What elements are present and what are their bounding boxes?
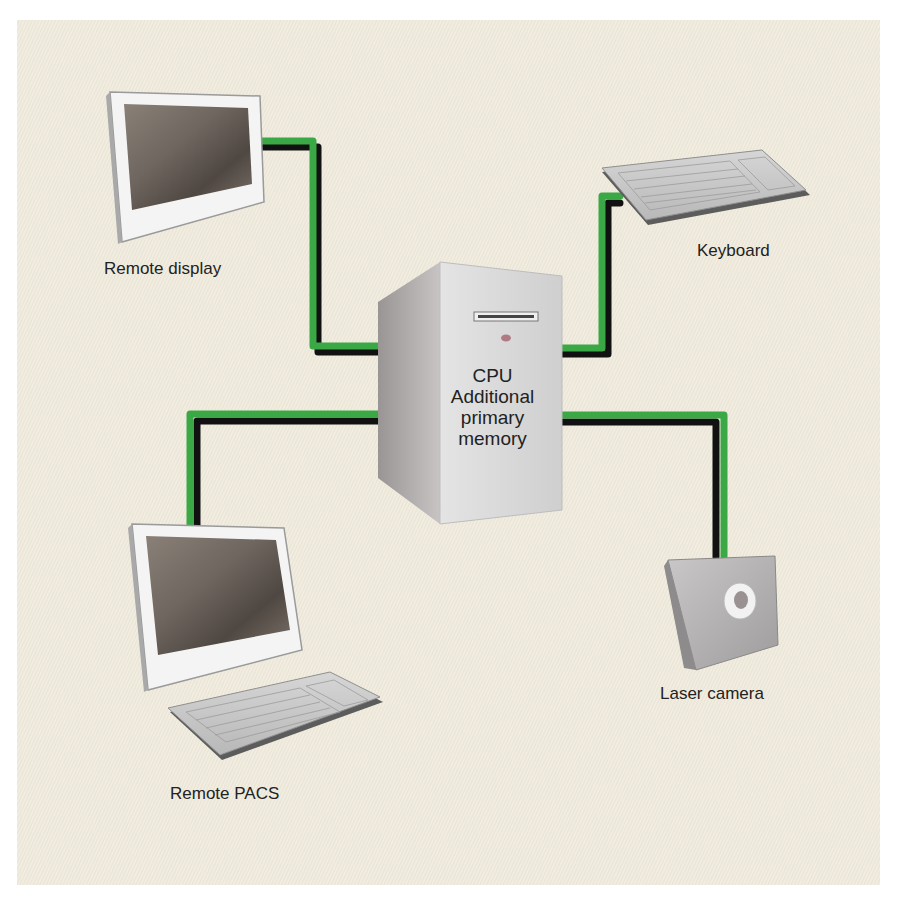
cpu-label-line-2: Additional [420, 386, 565, 407]
cpu-label-line-3: primary [420, 407, 565, 428]
label-remote-display: Remote display [104, 259, 221, 279]
workstation-icon [128, 524, 383, 760]
label-laser-camera: Laser camera [660, 684, 764, 704]
label-keyboard: Keyboard [697, 241, 770, 261]
keyboard-icon [602, 150, 810, 225]
monitor-icon [106, 92, 264, 244]
cpu-label: CPU Additional primary memory [420, 365, 565, 449]
cpu-label-line-4: memory [420, 428, 565, 449]
label-remote-pacs: Remote PACS [170, 784, 279, 804]
connector-laser-camera [562, 415, 724, 557]
network-diagram [0, 0, 898, 899]
cpu-label-line-1: CPU [420, 365, 565, 386]
connector-remote-pacs [190, 414, 410, 528]
camera-icon [664, 556, 778, 670]
connector-keyboard [562, 196, 620, 354]
